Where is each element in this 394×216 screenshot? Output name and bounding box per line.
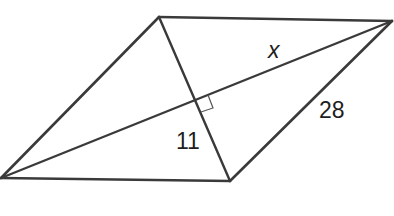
edge-right	[230, 21, 392, 181]
edge-top	[159, 17, 392, 21]
label-x: x	[267, 37, 281, 63]
rhombus-diagram: x 11 28	[0, 0, 394, 216]
label-side-28: 28	[319, 97, 345, 123]
edge-left	[1, 17, 159, 178]
short-diagonal	[159, 17, 230, 181]
edge-bottom	[1, 178, 230, 181]
label-half-diagonal-11: 11	[176, 128, 200, 154]
